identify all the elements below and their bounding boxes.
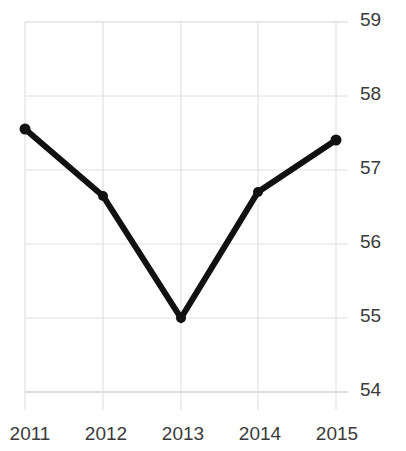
x-axis: 2011 2012 2013 2014 2015 — [0, 424, 406, 451]
y-tick-label-55: 55 — [360, 306, 400, 325]
vertical-gridlines — [25, 22, 336, 410]
data-point-2013 — [176, 313, 186, 323]
x-tick-label-2014: 2014 — [225, 424, 295, 443]
line-chart: 59 58 57 56 55 54 2011 2012 2013 2014 20… — [0, 0, 406, 451]
data-point-2012 — [98, 191, 108, 201]
x-tick-label-2012: 2012 — [71, 424, 141, 443]
y-tick-label-54: 54 — [360, 380, 400, 399]
horizontal-gridlines — [25, 22, 348, 392]
plot-area — [0, 0, 406, 451]
x-tick-label-2015: 2015 — [302, 424, 372, 443]
y-tick-label-58: 58 — [360, 84, 400, 103]
y-tick-label-56: 56 — [360, 232, 400, 251]
data-point-2011 — [20, 124, 31, 135]
x-tick-label-2013: 2013 — [148, 424, 218, 443]
y-axis: 59 58 57 56 55 54 — [360, 0, 406, 451]
data-point-2014 — [253, 187, 263, 197]
y-tick-label-59: 59 — [360, 10, 400, 29]
x-tick-label-2011: 2011 — [0, 424, 65, 443]
data-point-2015 — [331, 135, 342, 146]
y-tick-label-57: 57 — [360, 158, 400, 177]
